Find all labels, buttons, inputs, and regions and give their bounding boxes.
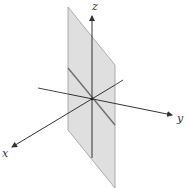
- coordinate-diagram: z y x: [0, 0, 188, 189]
- z-axis-label: z: [91, 0, 98, 13]
- x-axis-label: x: [2, 147, 9, 160]
- y-axis-back: [38, 88, 68, 94]
- y-axis-label: y: [176, 112, 184, 125]
- x-axis-back: [115, 80, 123, 85]
- origin-point: [91, 98, 94, 101]
